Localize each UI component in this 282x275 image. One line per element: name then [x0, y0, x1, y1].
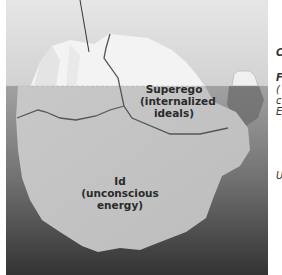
id-label-line1: Id: [60, 175, 180, 187]
left-margin: [0, 0, 6, 275]
iceberg-diagram: Superego (internalized ideals) Id (uncon…: [0, 0, 282, 275]
superego-label-line3: ideals): [140, 107, 208, 119]
id-label-line2: (unconscious energy): [60, 187, 180, 211]
cropped-label-fragment: C: [276, 47, 282, 58]
superego-label-line2: (internalized: [140, 95, 208, 107]
id-label: Id (unconscious energy): [60, 175, 180, 211]
cropped-label-fragment: (: [276, 84, 280, 95]
cropped-label-fragment: c: [276, 95, 282, 106]
cropped-label-fragment: F: [276, 72, 282, 83]
cropped-label-fragment: E: [276, 106, 282, 117]
superego-label-line1: Superego: [140, 83, 208, 95]
cropped-label-fragment: U: [276, 170, 282, 181]
right-margin: [268, 0, 282, 275]
iceberg-illustration: [0, 0, 282, 275]
superego-label: Superego (internalized ideals): [140, 83, 208, 119]
